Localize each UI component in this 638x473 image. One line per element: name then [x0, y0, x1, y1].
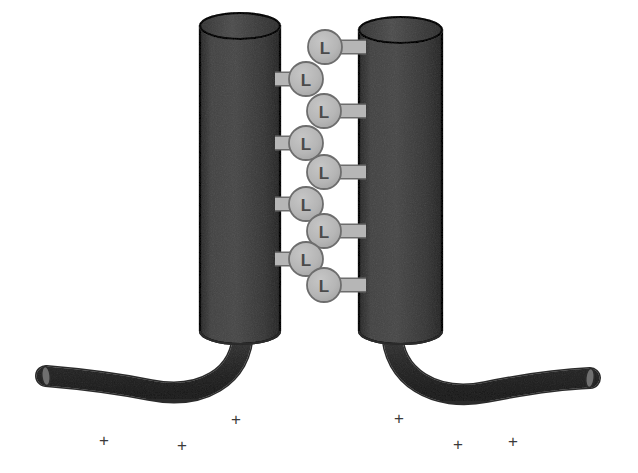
receptor-dimer-diagram: LLLLLLLLL ++++++ — [0, 0, 638, 473]
charge-marker-5: + — [508, 432, 518, 451]
left-transmembrane-cylinder[interactable] — [200, 13, 280, 344]
ligand-label-6: L — [319, 223, 329, 242]
right-cylinder-body — [359, 30, 442, 344]
ligand-label-3: L — [301, 135, 311, 154]
ligand-heads-group: LLLLLLLLL — [289, 30, 342, 302]
ligand-label-2: L — [319, 103, 329, 122]
cytoplasmic-tails-group — [41, 330, 595, 394]
right-transmembrane-cylinder[interactable] — [359, 17, 442, 344]
ligand-label-1: L — [301, 71, 311, 90]
ligand-label-4: L — [319, 164, 329, 183]
charge-marker-3: + — [394, 409, 404, 428]
charge-marker-0: + — [99, 431, 109, 450]
charge-marker-4: + — [453, 435, 463, 454]
ligand-label-8: L — [319, 277, 329, 296]
ligand-label-0: L — [320, 39, 330, 58]
left-cylinder-body — [200, 26, 280, 344]
charge-marker-2: + — [231, 410, 241, 429]
charge-marker-1: + — [177, 436, 187, 455]
ligand-label-7: L — [301, 251, 311, 270]
right-cylinder-top-cap — [359, 17, 442, 43]
ligand-label-5: L — [301, 196, 311, 215]
charge-markers-group: ++++++ — [99, 409, 518, 455]
diagram-canvas: LLLLLLLLL ++++++ — [0, 0, 638, 473]
left-cylinder-top-cap — [200, 13, 280, 39]
